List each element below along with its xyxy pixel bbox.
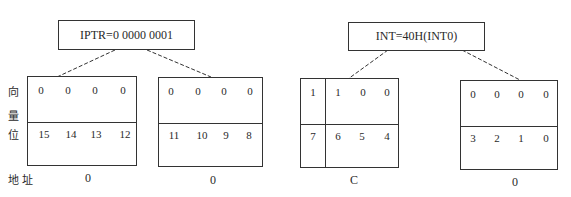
value-cell: 0 bbox=[536, 88, 556, 100]
value-cell: 0 bbox=[463, 88, 483, 100]
bit-index: 14 bbox=[61, 128, 81, 140]
bit-index: 15 bbox=[34, 128, 54, 140]
bit-index: 8 bbox=[239, 129, 259, 141]
address-value-1: 0 bbox=[78, 171, 98, 186]
address-value-2: 0 bbox=[203, 173, 223, 188]
int-label: INT=40H(INT0) bbox=[376, 29, 457, 44]
value-cell: 0 bbox=[161, 85, 181, 97]
value-cell: 0 bbox=[487, 88, 507, 100]
address-value-4: 0 bbox=[505, 175, 525, 190]
iptr-label: IPTR=0 0000 0001 bbox=[80, 28, 173, 43]
bit-index: 4 bbox=[377, 130, 397, 142]
row-divider bbox=[28, 122, 136, 123]
value-cell: 0 bbox=[240, 85, 260, 97]
value-cell: 0 bbox=[188, 85, 208, 97]
value-cell: 0 bbox=[113, 84, 133, 96]
bit-index: 3 bbox=[463, 132, 483, 144]
vector-label-char-1: 向 bbox=[8, 83, 19, 99]
value-cell: 0 bbox=[85, 84, 105, 96]
register-nibble-2: 0 0 0 0 11 10 9 8 bbox=[158, 77, 263, 167]
bit-index: 11 bbox=[164, 129, 184, 141]
value-cell: 0 bbox=[353, 86, 373, 98]
value-cell: 0 bbox=[511, 88, 531, 100]
row-divider bbox=[301, 124, 398, 125]
bit-index: 0 bbox=[536, 132, 556, 144]
bit-index: 6 bbox=[328, 130, 348, 142]
bit-index: 10 bbox=[192, 129, 212, 141]
vector-label-char-2: 量 bbox=[8, 107, 19, 123]
value-cell: 1 bbox=[328, 86, 348, 98]
value-cell: 0 bbox=[31, 84, 51, 96]
value-cell: 0 bbox=[58, 84, 78, 96]
bit-index: 5 bbox=[352, 130, 372, 142]
value-cell: 0 bbox=[214, 85, 234, 97]
address-value-3: C bbox=[344, 173, 364, 188]
int-node: INT=40H(INT0) bbox=[348, 22, 485, 51]
bit-index: 12 bbox=[115, 128, 135, 140]
bit-index: 1 bbox=[511, 132, 531, 144]
register-nibble-4: 0 0 0 0 3 2 1 0 bbox=[460, 80, 558, 170]
bit-index: 13 bbox=[86, 128, 106, 140]
bit-index: 7 bbox=[303, 130, 323, 142]
msb-divider bbox=[325, 79, 326, 167]
row-divider bbox=[461, 126, 557, 127]
value-cell: 1 bbox=[303, 86, 323, 98]
iptr-node: IPTR=0 0000 0001 bbox=[58, 20, 195, 50]
address-label: 地 址 bbox=[8, 171, 34, 187]
bit-index: 9 bbox=[216, 129, 236, 141]
register-nibble-1: 0 0 0 0 15 14 13 12 bbox=[27, 76, 137, 166]
value-cell: 0 bbox=[377, 86, 397, 98]
row-divider bbox=[159, 123, 262, 124]
register-nibble-3: 1 1 0 0 7 6 5 4 bbox=[300, 78, 399, 168]
bit-index: 2 bbox=[487, 132, 507, 144]
vector-label-char-3: 位 bbox=[8, 126, 19, 142]
